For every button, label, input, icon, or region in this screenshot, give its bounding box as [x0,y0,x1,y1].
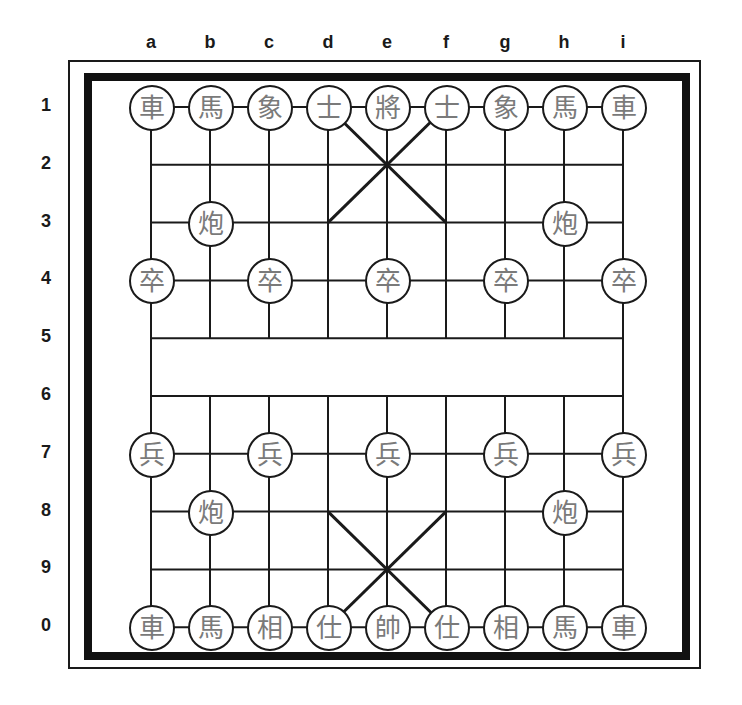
piece-soldier-g7[interactable]: 兵 [483,432,529,478]
horse-glyph: 馬 [198,615,224,641]
piece-advisor-f1[interactable]: 士 [424,85,470,131]
chariot-glyph: 車 [611,95,637,121]
elephant-glyph: 象 [493,95,519,121]
piece-horse-h0[interactable]: 馬 [542,605,588,651]
piece-advisor-d1[interactable]: 士 [306,85,352,131]
chariot-glyph: 車 [611,615,637,641]
piece-chariot-a1[interactable]: 車 [129,85,175,131]
piece-horse-b0[interactable]: 馬 [188,605,234,651]
general-glyph: 將 [375,95,401,121]
advisor-glyph: 士 [434,95,460,121]
soldier-glyph: 卒 [611,268,637,294]
soldier-glyph: 卒 [493,268,519,294]
piece-chariot-i1[interactable]: 車 [601,85,647,131]
piece-soldier-i7[interactable]: 兵 [601,432,647,478]
piece-chariot-i0[interactable]: 車 [601,605,647,651]
chariot-glyph: 車 [139,615,165,641]
general-glyph: 帥 [375,615,401,641]
piece-general-e0[interactable]: 帥 [365,605,411,651]
piece-soldier-a7[interactable]: 兵 [129,432,175,478]
elephant-glyph: 象 [257,95,283,121]
cannon-glyph: 炮 [198,500,224,526]
piece-cannon-h8[interactable]: 炮 [542,490,588,536]
soldier-glyph: 卒 [139,268,165,294]
soldier-glyph: 兵 [257,442,283,468]
soldier-glyph: 兵 [493,442,519,468]
piece-horse-h1[interactable]: 馬 [542,85,588,131]
elephant-glyph: 相 [257,615,283,641]
piece-general-e1[interactable]: 將 [365,85,411,131]
piece-elephant-c1[interactable]: 象 [247,85,293,131]
piece-chariot-a0[interactable]: 車 [129,605,175,651]
horse-glyph: 馬 [552,615,578,641]
chariot-glyph: 車 [139,95,165,121]
piece-horse-b1[interactable]: 馬 [188,85,234,131]
soldier-glyph: 卒 [375,268,401,294]
piece-elephant-g1[interactable]: 象 [483,85,529,131]
piece-advisor-d0[interactable]: 仕 [306,605,352,651]
cannon-glyph: 炮 [198,211,224,237]
soldier-glyph: 兵 [375,442,401,468]
cannon-glyph: 炮 [552,211,578,237]
piece-cannon-b8[interactable]: 炮 [188,490,234,536]
advisor-glyph: 士 [316,95,342,121]
elephant-glyph: 相 [493,615,519,641]
advisor-glyph: 仕 [434,615,460,641]
piece-soldier-c7[interactable]: 兵 [247,432,293,478]
advisor-glyph: 仕 [316,615,342,641]
soldier-glyph: 兵 [139,442,165,468]
horse-glyph: 馬 [552,95,578,121]
piece-cannon-h3[interactable]: 炮 [542,201,588,247]
piece-cannon-b3[interactable]: 炮 [188,201,234,247]
horse-glyph: 馬 [198,95,224,121]
soldier-glyph: 兵 [611,442,637,468]
piece-elephant-g0[interactable]: 相 [483,605,529,651]
piece-soldier-e7[interactable]: 兵 [365,432,411,478]
cannon-glyph: 炮 [552,500,578,526]
soldier-glyph: 卒 [257,268,283,294]
piece-elephant-c0[interactable]: 相 [247,605,293,651]
piece-advisor-f0[interactable]: 仕 [424,605,470,651]
